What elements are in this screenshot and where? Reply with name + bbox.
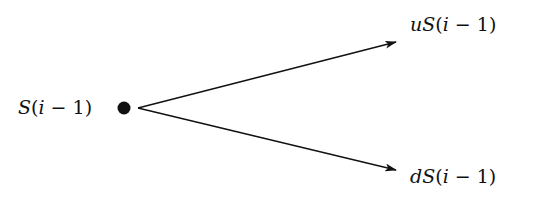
down-node-label: dS(i − 1)	[410, 165, 496, 187]
binomial-tree-diagram: S(i − 1) uS(i − 1) dS(i − 1)	[0, 0, 539, 203]
up-branch-arrow	[138, 42, 396, 108]
up-node-label: uS(i − 1)	[410, 13, 496, 35]
down-branch-arrow	[138, 108, 396, 170]
root-node-label: S(i − 1)	[18, 96, 92, 118]
root-node-dot	[118, 102, 131, 115]
